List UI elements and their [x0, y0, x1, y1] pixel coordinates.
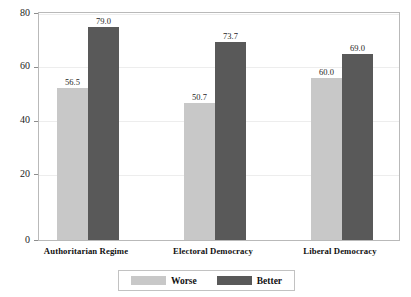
- y-tick-label-20: 20: [4, 168, 30, 179]
- bar-group-authoritarian-regime: 56.5 79.0: [57, 13, 119, 240]
- bar-rect: [184, 103, 215, 240]
- bar-rect: [88, 27, 119, 240]
- bar-group-liberal-democracy: 60.0 69.0: [311, 13, 373, 240]
- y-tick-label-40: 40: [4, 114, 30, 125]
- bar-rect: [342, 54, 373, 240]
- bar-chart-figure: Percentage 80 60 40 20 0 56.5 79.0: [0, 0, 411, 297]
- x-category-label-authoritarian-regime: Authoritarian Regime: [26, 246, 146, 256]
- bar-value-label: 50.7: [192, 92, 207, 102]
- x-category-label-electoral-democracy: Electoral Democracy: [153, 246, 273, 256]
- bar-group-electoral-democracy: 50.7 73.7: [184, 13, 246, 240]
- legend: Worse Better: [118, 270, 295, 291]
- bar-value-label: 60.0: [319, 67, 334, 77]
- y-tick-label-80: 80: [4, 7, 30, 18]
- bar-value-label: 79.0: [96, 16, 111, 26]
- legend-label-better: Better: [257, 276, 282, 286]
- legend-item-worse[interactable]: Worse: [131, 276, 197, 286]
- bar-rect: [57, 88, 88, 240]
- y-tick-label-60: 60: [4, 60, 30, 71]
- bar-value-label: 69.0: [350, 43, 365, 53]
- bar-value-label: 56.5: [65, 77, 80, 87]
- x-category-label-liberal-democracy: Liberal Democracy: [280, 246, 400, 256]
- legend-item-better[interactable]: Better: [217, 276, 282, 286]
- y-tick-label-0: 0: [4, 234, 30, 245]
- bar-rect: [311, 78, 342, 240]
- bar-value-label: 73.7: [223, 31, 238, 41]
- legend-label-worse: Worse: [171, 276, 197, 286]
- legend-swatch-better: [217, 276, 252, 285]
- legend-swatch-worse: [131, 276, 166, 285]
- plot-area: 56.5 79.0 50.7 73.7 60.0: [38, 12, 400, 241]
- bar-rect: [215, 42, 246, 241]
